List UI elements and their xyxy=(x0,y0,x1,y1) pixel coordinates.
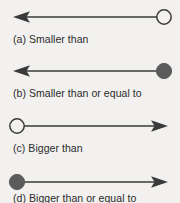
filled-circle-endpoint-b xyxy=(156,63,171,78)
filled-circle-endpoint-d xyxy=(9,174,24,189)
number-line-notation-figure: (a) Smaller than (b) Smaller than or equ… xyxy=(0,0,180,203)
open-circle-endpoint-a xyxy=(157,10,171,24)
diagram-c-bigger-than xyxy=(0,111,180,141)
caption-c: (c) Bigger than xyxy=(13,142,83,155)
caption-b: (b) Smaller than or equal to xyxy=(13,87,142,100)
diagram-a-smaller-than xyxy=(0,2,180,32)
open-circle-endpoint-c xyxy=(10,119,24,133)
diagram-b-smaller-than-or-equal-to xyxy=(0,56,180,86)
caption-d: (d) Bigger than or equal to xyxy=(13,192,136,203)
caption-a: (a) Smaller than xyxy=(13,33,89,46)
